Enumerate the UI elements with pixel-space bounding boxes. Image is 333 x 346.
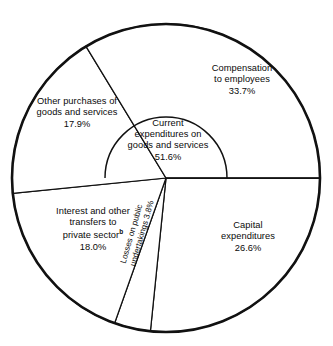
label-line-1: Current [104,118,232,129]
label-line-3-text: private sector [63,230,120,240]
label-line-1: Compensation [186,63,298,74]
label-percent: 26.6% [196,243,300,254]
pie-slice-capital-expenditures[interactable] [150,178,320,332]
label-line-2: goods and services [14,107,140,118]
label-line-2: to employees [186,74,298,85]
label-percent: 33.7% [186,86,298,97]
label-line-1: Other purchases of [14,96,140,107]
footnote-marker: b [119,228,123,235]
slice-label-capital-expenditures: Capital expenditures 26.6% [196,220,300,254]
label-percent: 51.6% [104,152,232,163]
label-line-2: expenditures [196,231,300,242]
pie-chart-svg [0,0,333,346]
slice-label-compensation-to-employees: Compensation to employees 33.7% [186,63,298,97]
label-line-2: expenditures on [104,129,232,140]
slice-label-current-expenditures: Current expenditures on goods and servic… [104,118,232,163]
label-line-1: Capital [196,220,300,231]
label-line-3: goods and services [104,140,232,151]
pie-chart: Compensation to employees 33.7% Other pu… [0,0,333,346]
